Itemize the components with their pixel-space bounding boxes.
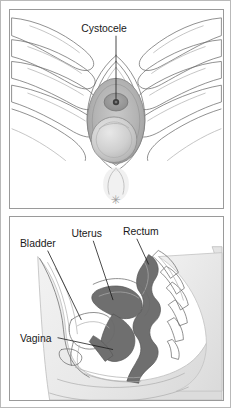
label-rectum: Rectum <box>123 226 159 237</box>
label-uterus: Uterus <box>71 228 102 239</box>
label-vagina: Vagina <box>20 333 52 344</box>
right-hand-fingers <box>134 18 221 161</box>
rectum-organ <box>127 255 161 384</box>
sagittal-view-drawing: Bladder Uterus Rectum Vagina <box>10 217 223 400</box>
external-view-drawing: Cystocele ✳ <box>10 10 223 208</box>
medical-illustration-figure: Cystocele ✳ <box>0 0 231 408</box>
asterisk-marker: ✳ <box>111 193 121 207</box>
label-cystocele: Cystocele <box>81 23 127 34</box>
label-bladder: Bladder <box>20 238 56 249</box>
leader-line-rectum <box>137 239 149 265</box>
left-hand-fingers <box>12 18 99 161</box>
panel-external-view: Cystocele ✳ <box>9 9 224 209</box>
panel-sagittal-view: Bladder Uterus Rectum Vagina <box>9 216 224 401</box>
